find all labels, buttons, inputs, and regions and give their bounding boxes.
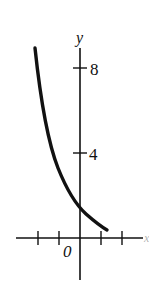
origin-label: 0: [63, 242, 72, 261]
y-tick-label-4: 4: [89, 145, 98, 164]
y-axis-label: y: [74, 29, 84, 47]
x-axis-label: x: [143, 231, 149, 245]
graph: y 8 4 0 x: [0, 0, 149, 300]
y-tick-label-8: 8: [90, 60, 99, 79]
